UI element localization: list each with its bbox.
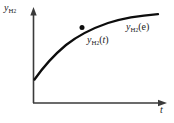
curve-point-label: yH2(t): [87, 35, 109, 46]
equilibrium-label-paren-close: ): [146, 21, 149, 32]
equilibrium-label: yH2(e): [126, 22, 149, 33]
figure-root: yH2 t yH2(t) yH2(e): [0, 0, 174, 123]
x-axis-label: t: [160, 105, 163, 115]
y-axis-label: yH2: [4, 3, 16, 14]
curve-point-label-paren-close: ): [105, 34, 108, 45]
y-axis: [30, 7, 36, 103]
x-axis: [33, 100, 167, 106]
y-axis-label-subscript-count: 2: [13, 8, 16, 14]
plot-canvas: [0, 0, 174, 123]
curve-point-marker: [80, 25, 85, 30]
